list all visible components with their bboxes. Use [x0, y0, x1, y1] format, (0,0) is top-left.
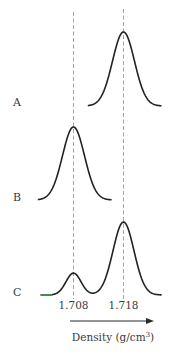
row-label-a: A [12, 96, 22, 109]
profile-curve-a [89, 32, 162, 106]
arrow-head-icon [146, 318, 154, 324]
reference-lines [74, 9, 124, 299]
row-label-c: C [13, 286, 21, 299]
density-gradient-figure: A B C 1.708 1.718 Density (g/cm3) [0, 0, 189, 354]
tick-label-1-708: 1.708 [58, 299, 88, 311]
profile-curve-c [41, 222, 161, 295]
profile-curves [39, 32, 162, 295]
x-axis-label-base: Density (g/cm [72, 331, 146, 343]
profile-curve-b [39, 127, 112, 200]
row-label-b: B [13, 191, 21, 204]
x-axis-label-close: ) [150, 331, 154, 343]
x-axis-label: Density (g/cm3) [72, 331, 154, 343]
tick-label-1-718: 1.718 [108, 299, 138, 311]
density-arrow [70, 318, 154, 324]
